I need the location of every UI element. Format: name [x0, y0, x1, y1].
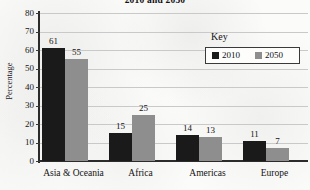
bar-value-label: 13 [195, 126, 226, 135]
y-axis-tick-labels: 80706050403020100 [6, 13, 34, 161]
x-axis-category-label: Africa [107, 168, 174, 178]
x-axis-category-label: Asia & Oceania [40, 168, 107, 178]
legend-label-2050: 2050 [265, 51, 283, 60]
y-axis-tick-mark [36, 13, 40, 14]
y-axis-tick-mark [36, 87, 40, 88]
bar-americas-2050 [199, 137, 222, 161]
y-axis-tick-label: 0 [10, 157, 34, 166]
legend-entry-2010: 2010 [212, 51, 240, 60]
y-axis-tick-label: 10 [10, 138, 34, 147]
legend-label-2010: 2010 [222, 51, 240, 60]
legend-swatch-icon-2010 [212, 52, 219, 59]
legend-title: Key [211, 31, 228, 42]
bar-value-label: 7 [262, 137, 293, 146]
y-axis-tick-label: 80 [10, 9, 34, 18]
y-axis-tick-label: 70 [10, 27, 34, 36]
bar-africa-2050 [132, 115, 155, 161]
bar-value-label: 61 [38, 37, 69, 46]
gridline [40, 13, 308, 14]
y-axis-tick-mark [36, 69, 40, 70]
y-axis-tick-label: 60 [10, 46, 34, 55]
y-axis-tick-mark [36, 143, 40, 144]
y-axis-tick-label: 20 [10, 120, 34, 129]
gridline [40, 32, 308, 33]
legend-entry-2050: 2050 [255, 51, 283, 60]
x-axis-category-label: Americas [174, 168, 241, 178]
y-axis-tick-label: 30 [10, 101, 34, 110]
y-axis-tick-label: 50 [10, 64, 34, 73]
bar-asia-oceania-2010 [42, 48, 65, 161]
plot-area: 615515251413117 [40, 13, 308, 161]
bar-value-label: 55 [61, 48, 92, 57]
y-axis-tick-mark [36, 32, 40, 33]
legend-swatch-icon-2050 [255, 52, 262, 59]
x-axis-category-label: Europe [241, 168, 308, 178]
bar-value-label: 25 [128, 104, 159, 113]
bar-africa-2010 [109, 133, 132, 161]
bar-chart-figure: 2010 and 2050 Percentage 807060504030201… [0, 0, 310, 190]
legend-box: 2010 2050 [205, 47, 300, 64]
bar-europe-2050 [266, 148, 289, 161]
y-axis-tick-mark [36, 50, 40, 51]
y-axis-tick-mark [36, 161, 40, 162]
bar-asia-oceania-2050 [65, 59, 88, 161]
y-axis-tick-mark [36, 106, 40, 107]
y-axis-tick-label: 40 [10, 83, 34, 92]
y-axis-tick-mark [36, 124, 40, 125]
bar-americas-2010 [176, 135, 199, 161]
chart-title: 2010 and 2050 [0, 0, 310, 5]
